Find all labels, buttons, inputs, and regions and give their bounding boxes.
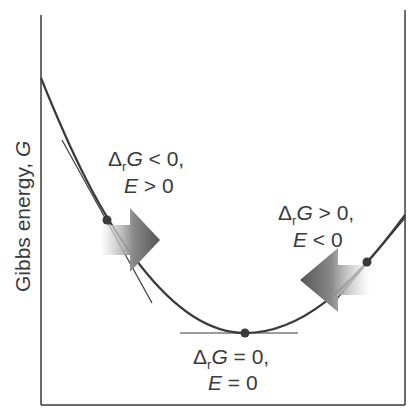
minimum-point	[241, 329, 250, 338]
left-tangent-point	[103, 216, 112, 225]
gibbs-energy-diagram: Gibbs energy, G ΔrG < 0, E > 0 ΔrG > 0, …	[0, 0, 413, 413]
right-region-label-line2: E < 0	[293, 228, 343, 251]
y-axis-label: Gibbs energy, G	[11, 141, 34, 292]
right-tangent-point	[363, 258, 372, 267]
left-region-label-line2: E > 0	[124, 174, 174, 197]
left-region-label-line1: ΔrG < 0,	[108, 147, 184, 174]
right-region-label-line1: ΔrG > 0,	[278, 201, 354, 228]
minimum-label-line1: ΔrG = 0,	[193, 345, 269, 372]
minimum-label-line2: E = 0	[208, 371, 258, 394]
arrow-left-icon	[300, 248, 370, 312]
